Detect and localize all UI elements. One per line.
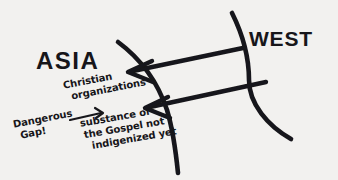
diagram-canvas: ASIA WEST Christian organizations Danger… <box>0 0 338 180</box>
arrow-upper-shaft <box>133 48 243 71</box>
label-asia: ASIA <box>36 49 99 73</box>
label-west: WEST <box>249 28 313 49</box>
